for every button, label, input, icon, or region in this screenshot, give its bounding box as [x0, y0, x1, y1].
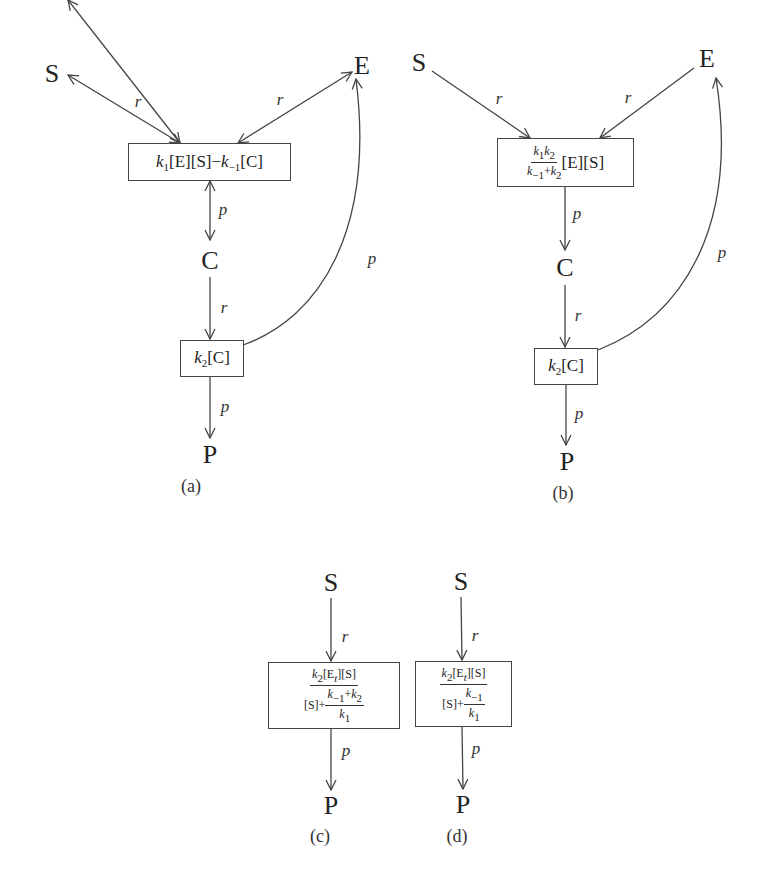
rate-box-quasi-equilibrium: k2[Et][S] [S]+ k−1 k1 [415, 661, 512, 727]
panel-caption: (d) [447, 827, 468, 845]
rate-expression: k2[Et][S] [S]+ k−1 k1 [440, 666, 488, 723]
edge-label-p: p [573, 205, 582, 222]
diagram-edges [0, 0, 765, 893]
node-enzyme: E [699, 46, 715, 72]
rate-expression: k2[Et][S] [S]+ k−1+k2 k1 [304, 667, 364, 724]
edge-label-p: p [472, 740, 481, 757]
edge-label-r: r [135, 93, 142, 110]
node-product: P [560, 449, 574, 475]
rate-expression: k2[C] [548, 356, 584, 377]
edge-label-p: p [368, 250, 377, 267]
node-complex: C [556, 255, 573, 281]
edge-label-r: r [575, 307, 582, 324]
rate-box-binding: k1k2 k−1+k2 [E][S] [497, 138, 634, 187]
edge-a-s-binding [68, 0, 180, 143]
edge-label-p: p [221, 398, 230, 415]
node-enzyme: E [354, 53, 370, 79]
edge-label-p: p [718, 244, 727, 261]
rate-box-catalysis: k2[C] [180, 340, 244, 377]
node-product: P [203, 442, 217, 468]
edge-label-p: p [342, 742, 351, 759]
edge-label-p: p [575, 405, 584, 422]
rate-expression: k2[C] [194, 348, 230, 369]
edge-label-r: r [496, 90, 503, 107]
node-substrate: S [45, 61, 59, 87]
edge-label-p: p [219, 201, 228, 218]
node-substrate: S [412, 50, 426, 76]
edge-label-r: r [342, 628, 349, 645]
panel-caption: (c) [310, 827, 330, 845]
edge-label-r: r [472, 627, 479, 644]
panel-caption: (a) [181, 477, 201, 495]
edge-label-r: r [221, 299, 228, 316]
rate-box-binding: k1[E][S]−k−1[C] [128, 143, 291, 181]
rate-expression: k1k2 k−1+k2 [E][S] [527, 144, 604, 181]
panel-caption: (b) [553, 484, 574, 502]
node-complex: C [201, 248, 218, 274]
node-product: P [456, 792, 470, 818]
rate-box-catalysis: k2[C] [534, 348, 598, 385]
edge-label-r: r [277, 91, 284, 108]
node-product: P [324, 793, 338, 819]
node-substrate: S [454, 569, 468, 595]
rate-expression: k1[E][S]−k−1[C] [156, 152, 263, 173]
rate-box-michaelis-menten: k2[Et][S] [S]+ k−1+k2 k1 [268, 662, 400, 729]
edge-label-r: r [625, 89, 632, 106]
node-substrate: S [324, 570, 338, 596]
